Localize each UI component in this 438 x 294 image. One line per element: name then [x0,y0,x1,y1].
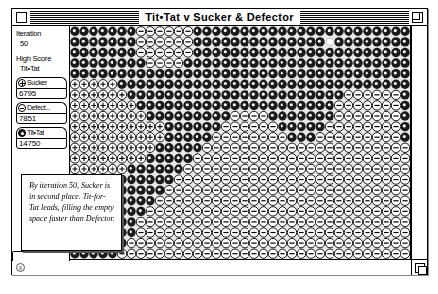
score-value-titfortat: 14750 [16,138,67,149]
score-name-sucker: Sucker [27,78,47,88]
score-block-defector[interactable]: Defect... 7851 [16,102,67,124]
high-score-label: High Score [16,54,66,64]
score-name-defector: Defect... [27,103,50,113]
vertical-scrollbar[interactable] [411,26,427,259]
score-name-titfortat: Tit•Tat [27,128,44,138]
window-titlebar[interactable]: Tit•Tat v Sucker & Defector [12,9,427,26]
grow-box-icon[interactable] [411,259,427,275]
horizontal-scrollbar[interactable]: 9 [12,259,411,275]
window-body: Iteration 50 High Score Tit•Tat Sucker 6… [12,26,427,275]
iteration-value: 50 [20,39,66,49]
score-head-titfortat: Tit•Tat [16,127,67,138]
annotation-callout: By iteration 50, Sucker is in second pla… [21,174,122,251]
titfortat-dark-chip-icon [18,129,26,137]
zoom-box-icon[interactable] [412,12,423,23]
score-head-defector: Defect... [16,102,67,113]
score-block-sucker[interactable]: Sucker 6795 [16,77,67,99]
sucker-plus-chip-icon [18,79,26,87]
titlebar-stripes-right [300,11,409,24]
score-value-defector: 7851 [16,113,67,124]
score-block-titfortat[interactable]: Tit•Tat 14750 [16,127,67,149]
corner-marker[interactable]: 9 [16,263,25,272]
iteration-label: Iteration [16,29,66,39]
high-score-value: Tit•Tat [20,64,66,74]
score-value-sucker: 6795 [16,88,67,99]
titlebar-stripes-left [30,11,139,24]
score-head-sucker: Sucker [16,77,67,88]
application-window: Tit•Tat v Sucker & Defector Iteration 50… [11,8,428,275]
close-box-icon[interactable] [16,12,27,23]
panel-tab-lip [12,251,70,261]
window-title: Tit•Tat v Sucker & Defector [139,11,299,23]
defector-minus-chip-icon [18,104,26,112]
